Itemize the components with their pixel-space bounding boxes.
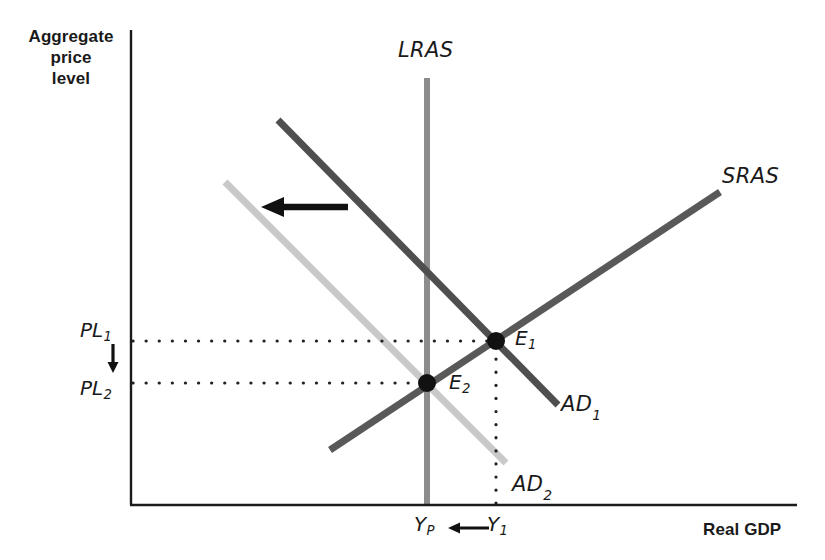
equilibrium-point-e1 bbox=[487, 332, 505, 350]
output-fall-arrow-icon bbox=[447, 517, 489, 539]
price-fall-arrow-icon bbox=[106, 344, 120, 374]
x-axis-title: Real GDP bbox=[703, 519, 781, 540]
sras-curve-label: SRAS bbox=[722, 164, 779, 188]
y-axis-title: Aggregate price level bbox=[12, 26, 130, 89]
output-label-yp-sub: P bbox=[426, 523, 434, 538]
equilibrium-label-e1-sub: 1 bbox=[528, 337, 536, 352]
price-level-label-pl1-sub: 1 bbox=[103, 329, 111, 344]
y-axis-title-line-2: price bbox=[12, 47, 130, 68]
ad1-curve-label-text: AD bbox=[561, 392, 592, 416]
output-label-yp: YP bbox=[414, 512, 434, 536]
y-axis-title-line-1: Aggregate bbox=[12, 26, 130, 47]
price-level-label-pl2-text: PL bbox=[80, 376, 103, 400]
equilibrium-label-e2-sub: 2 bbox=[462, 381, 470, 396]
price-level-label-pl1: PL1 bbox=[80, 318, 112, 342]
equilibrium-label-e2-text: E bbox=[449, 370, 462, 394]
ad2-curve-label-sub: 2 bbox=[543, 487, 552, 503]
ad2-curve-label: AD2 bbox=[512, 472, 553, 499]
equilibrium-label-e2: E2 bbox=[449, 370, 470, 394]
price-level-label-pl1-text: PL bbox=[80, 318, 103, 342]
ad1-curve-label: AD1 bbox=[561, 392, 602, 419]
output-label-yp-text: Y bbox=[414, 512, 426, 536]
lras-curve-label: LRAS bbox=[398, 38, 454, 62]
ad2-curve-label-text: AD bbox=[512, 472, 543, 496]
y-axis-title-line-3: level bbox=[12, 68, 130, 89]
equilibrium-label-e1: E1 bbox=[515, 326, 536, 350]
price-level-label-pl2-sub: 2 bbox=[103, 387, 111, 402]
ad2-curve bbox=[225, 182, 506, 463]
output-label-y1-sub: 1 bbox=[499, 523, 507, 538]
ad-shift-arrow-icon bbox=[261, 197, 348, 217]
ad1-curve-label-sub: 1 bbox=[592, 407, 601, 423]
ad1-curve bbox=[278, 120, 558, 405]
price-level-label-pl2: PL2 bbox=[80, 376, 112, 400]
ad-as-diagram: Aggregate price level Real GDP LRAS SRAS… bbox=[0, 0, 825, 560]
equilibrium-point-e2 bbox=[418, 374, 436, 392]
output-label-y1: Y1 bbox=[487, 512, 508, 536]
equilibrium-label-e1-text: E bbox=[515, 326, 528, 350]
